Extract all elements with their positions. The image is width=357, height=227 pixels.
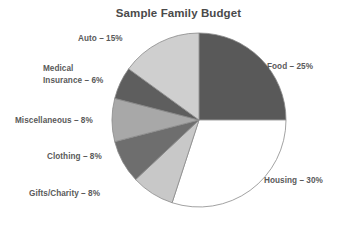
slice-label-medical-insurance-line2: Insurance – 6%	[43, 75, 103, 87]
pie-slices-group	[112, 33, 286, 207]
slice-label-auto: Auto – 15%	[78, 33, 123, 44]
slice-label-medical-insurance-line1: Medical	[43, 63, 103, 75]
pie-slice-food	[199, 33, 286, 120]
slice-label-medical-insurance: Medical Insurance – 6%	[43, 63, 103, 86]
slice-label-gifts-charity: Gifts/Charity – 8%	[29, 188, 100, 199]
slice-label-clothing: Clothing – 8%	[47, 151, 102, 162]
slice-label-food: Food – 25%	[267, 61, 313, 72]
slice-label-housing: Housing – 30%	[264, 175, 323, 186]
pie-chart-figure: Sample Family Budget Auto – 15% Medical …	[0, 0, 357, 227]
slice-label-miscellaneous: Miscellaneous – 8%	[15, 115, 93, 126]
